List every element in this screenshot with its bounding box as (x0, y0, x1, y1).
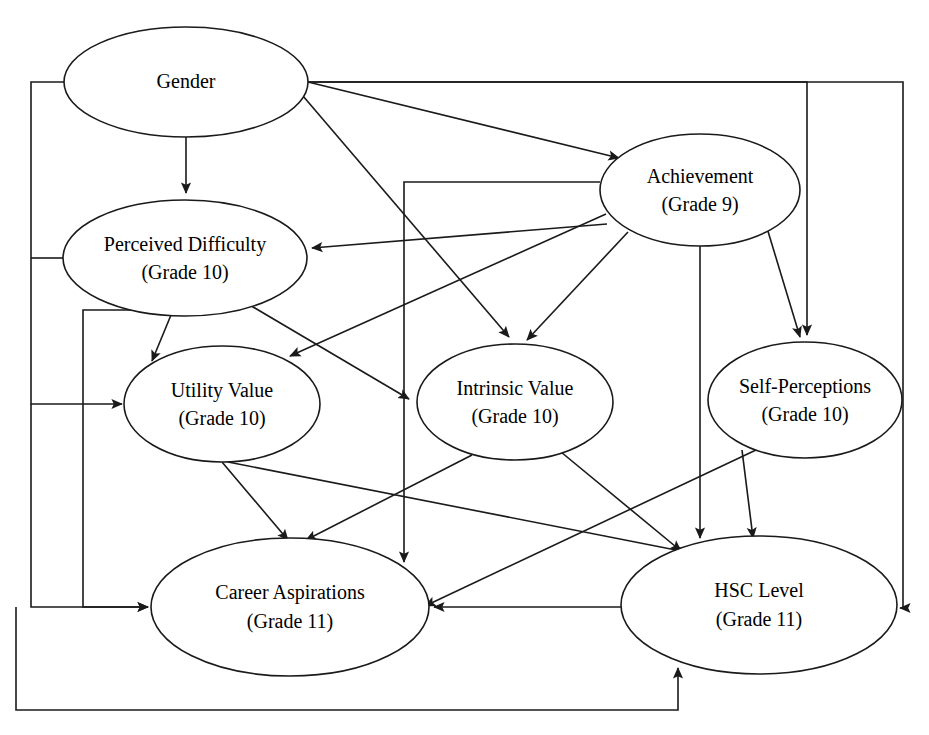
edge-perceived-difficulty-to-utility-value (152, 315, 171, 361)
node-utility-value-label: Utility Value (171, 379, 274, 402)
node-achievement[interactable]: Achievement (Grade 9) (600, 134, 800, 246)
node-achievement-label: Achievement (647, 165, 754, 187)
edge-gender-to-career-aspirations (31, 404, 148, 607)
node-career-aspirations-ellipse (151, 538, 429, 676)
node-self-perceptions-sublabel: (Grade 10) (761, 403, 848, 426)
edge-gender-to-intrinsic-value (303, 96, 509, 337)
node-utility-value-ellipse (124, 346, 320, 462)
path-diagram-svg: Gender Achievement (Grade 9) Perceived D… (0, 0, 929, 735)
node-intrinsic-value-ellipse (417, 344, 613, 460)
edge-self-perceptions-to-hsc-level (742, 450, 753, 538)
edge-gender-to-achievement (308, 82, 619, 158)
node-hsc-level-ellipse (621, 536, 897, 674)
node-gender-label: Gender (157, 70, 216, 92)
node-achievement-sublabel: (Grade 9) (661, 193, 738, 216)
node-hsc-level[interactable]: HSC Level (Grade 11) (621, 536, 897, 674)
node-intrinsic-value[interactable]: Intrinsic Value (Grade 10) (417, 344, 613, 460)
node-intrinsic-value-label: Intrinsic Value (457, 377, 574, 399)
path-diagram-canvas: Gender Achievement (Grade 9) Perceived D… (0, 0, 929, 735)
edge-perceived-difficulty-to-career-aspirations (83, 310, 148, 607)
node-hsc-level-label: HSC Level (714, 579, 804, 601)
node-self-perceptions[interactable]: Self-Perceptions (Grade 10) (708, 342, 902, 458)
edge-achievement-to-self-perceptions (767, 228, 800, 337)
edge-achievement-to-utility-value (290, 214, 606, 356)
edge-utility-value-to-career-aspirations (222, 462, 288, 540)
node-utility-value[interactable]: Utility Value (Grade 10) (124, 346, 320, 462)
node-career-aspirations-sublabel: (Grade 11) (247, 610, 333, 633)
node-perceived-difficulty-ellipse (63, 200, 307, 316)
node-perceived-difficulty-sublabel: (Grade 10) (141, 261, 228, 284)
edge-intrinsic-value-to-hsc-level (561, 452, 681, 551)
node-intrinsic-value-sublabel: (Grade 10) (471, 405, 558, 428)
node-self-perceptions-label: Self-Perceptions (739, 375, 871, 398)
node-perceived-difficulty-label: Perceived Difficulty (104, 233, 266, 256)
node-self-perceptions-ellipse (708, 342, 902, 458)
node-career-aspirations-label: Career Aspirations (215, 581, 365, 604)
node-gender[interactable]: Gender (64, 27, 308, 137)
node-utility-value-sublabel: (Grade 10) (178, 407, 265, 430)
edge-intrinsic-value-to-career-aspirations (306, 455, 472, 540)
node-achievement-ellipse (600, 134, 800, 246)
node-perceived-difficulty[interactable]: Perceived Difficulty (Grade 10) (63, 200, 307, 316)
node-career-aspirations[interactable]: Career Aspirations (Grade 11) (151, 538, 429, 676)
node-hsc-level-sublabel: (Grade 11) (716, 608, 802, 631)
edge-achievement-to-intrinsic-value (527, 232, 628, 340)
edge-achievement-to-perceived-difficulty (312, 224, 607, 248)
